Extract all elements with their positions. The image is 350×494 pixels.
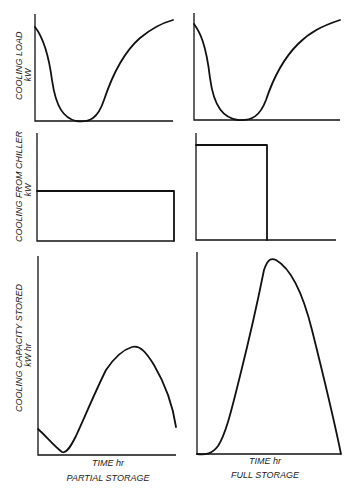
- ylabel-cooling-load-unit: kW: [23, 67, 33, 82]
- curve-stored-partial: [38, 347, 176, 453]
- xlabel-partial: TIME hr: [92, 458, 125, 468]
- column-title-full: FULL STORAGE: [231, 470, 300, 480]
- ylabel-cooling-load: COOLING LOAD: [14, 31, 24, 100]
- curve-chiller-full: [196, 145, 267, 240]
- x-axis-labels: TIME hr TIME hr PARTIAL STORAGE FULL STO…: [67, 456, 301, 483]
- curves: [35, 20, 341, 454]
- curve-stored-full: [197, 259, 341, 454]
- axis-chiller-full: [196, 133, 336, 240]
- axis-chiller-partial: [37, 133, 174, 241]
- ylabel-stored-unit: kW hr: [23, 342, 33, 367]
- ylabel-chiller-unit: kW: [23, 182, 33, 197]
- column-title-partial: PARTIAL STORAGE: [67, 473, 151, 483]
- axes: [35, 13, 341, 455]
- axis-stored-partial: [38, 256, 176, 455]
- curve-cooling-load-partial: [35, 20, 173, 121]
- xlabel-full: TIME hr: [249, 456, 282, 466]
- axis-stored-full: [197, 252, 341, 454]
- storage-comparison-diagram: COOLING LOAD kW COOLING FROM CHILLER kW …: [0, 0, 350, 494]
- y-axis-labels: COOLING LOAD kW COOLING FROM CHILLER kW …: [14, 31, 33, 412]
- curve-cooling-load-full: [194, 20, 340, 120]
- curve-chiller-partial: [37, 191, 174, 241]
